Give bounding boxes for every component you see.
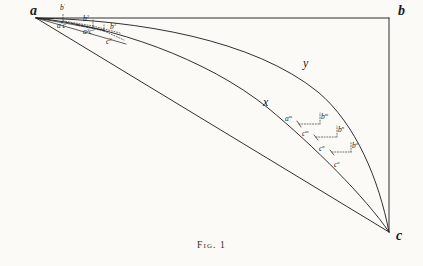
figure-caption: Fig. 1 [0, 240, 423, 250]
node-label-c-n: cn [319, 145, 325, 153]
node-label-a-2-c-2: a²c2 [83, 28, 95, 36]
curve-label-x: x [263, 96, 268, 108]
node-label-b-n: bn [338, 126, 344, 134]
node-label-b-m: bm [321, 113, 328, 121]
node-label-c-o: co [334, 161, 340, 169]
vertex-label-a: a [30, 4, 37, 18]
node-sup: m [289, 114, 292, 119]
node-base: a²c [83, 27, 92, 36]
node-sup: o [337, 160, 339, 165]
node-sup: 2 [87, 14, 89, 19]
node-label-c-m: cm [302, 130, 309, 138]
node-sup: o [356, 141, 358, 146]
node-sup: m [325, 112, 328, 117]
node-label-a-prime-c-prime: a′c′ [57, 22, 67, 30]
node-label-b-2: b2 [83, 15, 89, 23]
node-label-b-prime: b′ [60, 4, 65, 12]
node-sup: m [305, 129, 308, 134]
curve-label-y: y [303, 57, 308, 69]
node-sup: n [342, 125, 344, 130]
node-sup: 3 [109, 37, 111, 42]
node-label-b-3: b3 [110, 23, 116, 31]
node-sup: 2 [92, 27, 94, 32]
node-label-c-3: c3 [106, 38, 112, 46]
vertex-label-b: b [398, 4, 405, 18]
node-base: a′c [57, 21, 66, 30]
node-sup: ′ [66, 21, 67, 26]
node-label-b-o: bo [352, 142, 358, 150]
figure-page: a b c y x b′ a′c′ b2 a²c2 b3 c3 am bm cm… [0, 0, 423, 266]
figure-drawing [0, 0, 423, 266]
node-sup: n [322, 144, 324, 149]
edge-a-c [36, 18, 389, 232]
node-sup: 3 [114, 22, 116, 27]
node-sup: ′ [64, 3, 65, 8]
node-label-a-m: am [285, 115, 292, 123]
